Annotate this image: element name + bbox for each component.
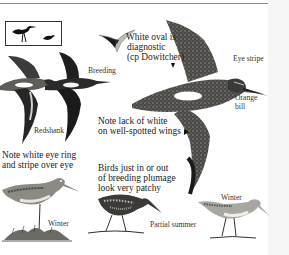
- label-birds-just-1: Birds just in or out: [98, 163, 168, 173]
- label-white-oval-2: diagnostic: [127, 42, 166, 52]
- label-note-lack-2-text: on well-spotted wings: [98, 126, 181, 136]
- label-note-lack-2: on well-spotted wings: [98, 126, 189, 136]
- label-orange-bill-1: Orange: [235, 94, 257, 102]
- winter-right-bird-illustration: [196, 196, 276, 246]
- winter-left-bird-illustration: [0, 170, 82, 245]
- pointer-arrow-icon: [171, 63, 175, 68]
- label-note-lack-1: Note lack of white: [98, 116, 168, 126]
- label-note-eye-ring-1: Note white eye ring: [2, 150, 76, 160]
- partial-summer-bird-illustration: [84, 193, 164, 243]
- label-birds-just-3: look very patchy: [98, 183, 161, 193]
- size-silhouettes-box: [5, 21, 62, 46]
- label-birds-just-2: of breeding plumage: [98, 173, 176, 183]
- label-white-oval-3: (cp Dowitcher): [127, 52, 184, 62]
- silhouettes-icon: [6, 22, 61, 45]
- pointer-arrow-icon: [184, 129, 189, 135]
- label-redshank: Redshank: [34, 127, 64, 135]
- label-white-oval-1: White oval is: [126, 32, 176, 42]
- label-orange-bill-2: bill: [235, 103, 245, 111]
- label-eye-stripe: Eye stripe: [233, 55, 264, 63]
- label-note-eye-ring-2: and stripe over eye: [2, 160, 73, 170]
- label-breeding: Breeding: [88, 67, 116, 75]
- top-rule: [0, 3, 268, 4]
